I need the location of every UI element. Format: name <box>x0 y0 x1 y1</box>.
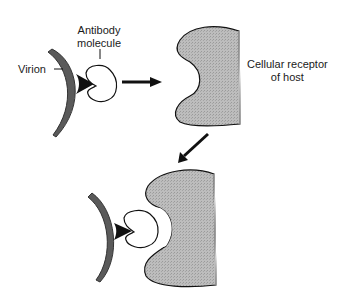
cellular-receptor-label: Cellular receptor of host <box>247 58 328 84</box>
antibody-label-line2: molecule <box>77 37 121 50</box>
antibody-label: Antibody molecule <box>77 24 121 50</box>
antibody-label-line1: Antibody <box>77 24 121 37</box>
cellular-receptor-label-line2: of host <box>247 71 328 84</box>
cellular-receptor-top <box>175 27 240 126</box>
virion-shell-bottom <box>88 193 114 282</box>
diagram-canvas <box>0 0 353 294</box>
virion-shell-top <box>48 49 75 137</box>
arrow-right <box>122 77 162 87</box>
cellular-receptor-label-line1: Cellular receptor <box>247 58 328 71</box>
virion-label: Virion <box>18 63 46 76</box>
arrow-down-left <box>178 134 208 163</box>
antibody-molecule-bottom <box>124 211 158 248</box>
